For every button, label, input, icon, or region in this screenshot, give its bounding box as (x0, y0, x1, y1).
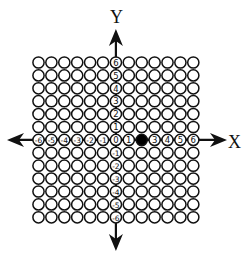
grid-circle (175, 173, 186, 184)
y-tick-label: -6 (112, 214, 120, 223)
grid-circle (123, 96, 134, 107)
x-tick-label: -4 (61, 136, 69, 145)
grid-circle (46, 173, 57, 184)
grid-circle (85, 70, 96, 81)
grid-circle (136, 147, 147, 158)
grid-circle (162, 96, 173, 107)
grid-circle (33, 199, 44, 210)
grid-circle (123, 121, 134, 132)
grid-circle (97, 212, 108, 223)
grid-circle (123, 147, 134, 158)
coordinate-grid-diagram: 654321-6-5-4-3-2-1013456-1-2-3-4-5-6 Y X (0, 0, 247, 256)
grid-circle (46, 57, 57, 68)
y-tick-label: -2 (112, 162, 120, 171)
grid-circle (162, 173, 173, 184)
grid-circle (188, 109, 199, 120)
grid-circle (123, 173, 134, 184)
y-tick-label: 4 (113, 84, 118, 94)
grid-circle (188, 70, 199, 81)
grid-circle (136, 186, 147, 197)
grid-circle (175, 83, 186, 94)
x-tick-label: -2 (86, 136, 94, 145)
grid-circle (188, 96, 199, 107)
y-tick-label: -5 (112, 201, 120, 210)
grid-circle (149, 70, 160, 81)
x-tick-label: 5 (178, 135, 183, 145)
grid-circle (85, 121, 96, 132)
grid-circle (97, 57, 108, 68)
y-tick-label: 1 (113, 122, 118, 132)
grid-circle (59, 212, 70, 223)
grid-circle (136, 70, 147, 81)
grid-circle (175, 199, 186, 210)
grid-circle (149, 83, 160, 94)
y-axis-label: Y (110, 8, 123, 26)
grid-circle (162, 147, 173, 158)
grid-circle (188, 186, 199, 197)
grid-circle (85, 186, 96, 197)
grid-circle (85, 173, 96, 184)
grid-circle (72, 186, 83, 197)
grid-circle (188, 121, 199, 132)
grid-circle (149, 212, 160, 223)
grid-circle (97, 96, 108, 107)
grid-circle (59, 199, 70, 210)
grid-circle (85, 199, 96, 210)
grid-circle (188, 173, 199, 184)
grid-circle (162, 70, 173, 81)
grid-circle (162, 212, 173, 223)
grid-circle (46, 96, 57, 107)
grid-circle (123, 109, 134, 120)
grid-circle (162, 186, 173, 197)
grid-circle (123, 160, 134, 171)
grid-circle (97, 199, 108, 210)
grid-circle (46, 160, 57, 171)
grid-circle (162, 83, 173, 94)
grid-circle (149, 57, 160, 68)
grid-circle (46, 70, 57, 81)
grid-circle (72, 96, 83, 107)
grid-circle (188, 147, 199, 158)
x-tick-label: 0 (113, 135, 118, 145)
grid-circle (136, 83, 147, 94)
grid-circle (175, 121, 186, 132)
grid-circle (188, 212, 199, 223)
grid-circle (59, 70, 70, 81)
grid-circle (46, 212, 57, 223)
grid-circle (149, 173, 160, 184)
grid-circle (59, 96, 70, 107)
grid-circle (59, 121, 70, 132)
grid-circle (72, 57, 83, 68)
grid-circle (33, 57, 44, 68)
grid-circle (123, 186, 134, 197)
grid-circle (33, 212, 44, 223)
grid-circle (59, 186, 70, 197)
grid-circle (188, 83, 199, 94)
grid-circle (72, 147, 83, 158)
grid-circle (46, 186, 57, 197)
grid-circle (175, 57, 186, 68)
x-tick-label: 1 (126, 135, 131, 145)
grid-circle (97, 70, 108, 81)
grid-circle (188, 57, 199, 68)
grid-circle (33, 160, 44, 171)
x-tick-label: -6 (35, 136, 43, 145)
grid-circle (136, 212, 147, 223)
grid-circle (33, 186, 44, 197)
grid-circle (149, 121, 160, 132)
grid-circle (175, 147, 186, 158)
grid-circle (162, 121, 173, 132)
grid-circle (149, 186, 160, 197)
highlighted-point (136, 134, 147, 145)
grid-circle (136, 109, 147, 120)
grid-circle (72, 212, 83, 223)
grid-circle (175, 212, 186, 223)
grid-circle (33, 121, 44, 132)
grid-circle (136, 173, 147, 184)
grid-circle (136, 96, 147, 107)
grid-circle (188, 160, 199, 171)
grid-circle (72, 70, 83, 81)
grid-circle (123, 57, 134, 68)
grid-circle (188, 199, 199, 210)
grid-circle (149, 160, 160, 171)
